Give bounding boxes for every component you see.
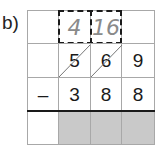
subtraction-grid: 4 16 5 6 9 – 3 8 8 xyxy=(27,10,155,144)
question-label: b) xyxy=(2,12,19,34)
cross-out-strokes xyxy=(27,10,155,144)
